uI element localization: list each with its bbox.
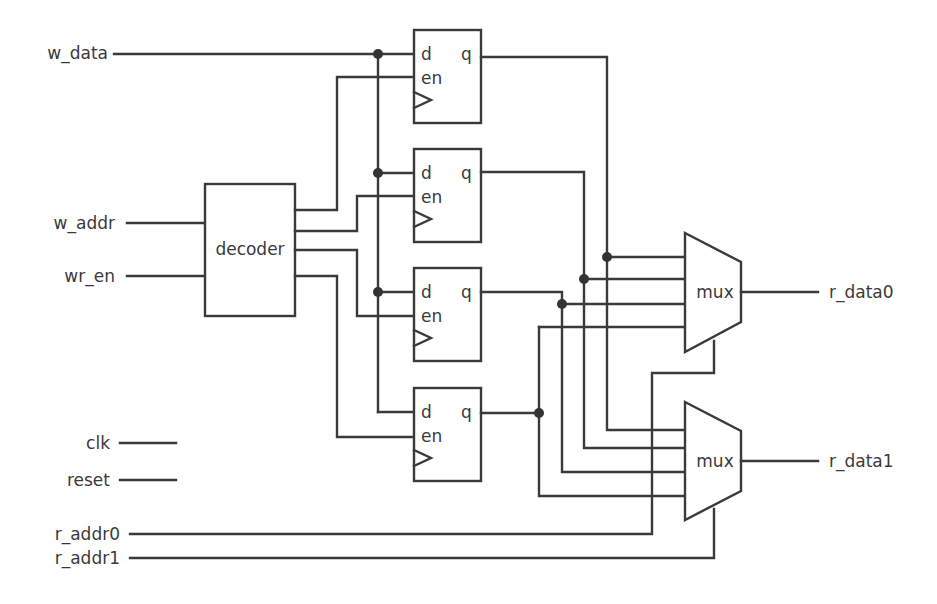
mux-1: mux — [685, 402, 741, 520]
enable-wires — [295, 77, 414, 437]
mux-0: mux — [685, 233, 741, 352]
port-q: q — [461, 163, 472, 183]
decoder-label: decoder — [215, 239, 284, 259]
label-r-addr1: r_addr1 — [55, 548, 120, 569]
register-3: d q en — [414, 388, 481, 481]
label-w-data: w_data — [47, 43, 108, 64]
register-2: d q en — [414, 268, 481, 361]
mux-label: mux — [696, 451, 733, 471]
register-file-diagram: w_data w_addr wr_en clk reset r_addr0 r_… — [0, 0, 937, 604]
label-w-addr: w_addr — [54, 213, 115, 234]
mux-label: mux — [696, 282, 733, 302]
register-0: d q en — [414, 30, 481, 123]
label-r-data0: r_data0 — [829, 282, 894, 303]
label-wr-en: wr_en — [64, 266, 115, 287]
port-en: en — [421, 426, 442, 446]
port-en: en — [421, 306, 442, 326]
port-d: d — [421, 163, 432, 183]
junction-dot — [557, 299, 567, 309]
port-q: q — [461, 402, 472, 422]
port-q: q — [461, 282, 472, 302]
label-clk: clk — [86, 433, 110, 453]
register-1: d q en — [414, 149, 481, 242]
port-en: en — [421, 187, 442, 207]
label-r-addr0: r_addr0 — [55, 524, 120, 545]
port-en: en — [421, 68, 442, 88]
junction-dot — [579, 274, 589, 284]
junction-dot — [373, 287, 383, 297]
label-r-data1: r_data1 — [829, 451, 894, 472]
label-reset: reset — [67, 470, 110, 490]
junction-dot — [373, 49, 383, 59]
port-q: q — [461, 44, 472, 64]
port-d: d — [421, 402, 432, 422]
junction-dot — [373, 168, 383, 178]
port-d: d — [421, 44, 432, 64]
port-d: d — [421, 282, 432, 302]
junction-dot — [534, 408, 544, 418]
junction-dot — [602, 252, 612, 262]
schematic: w_data w_addr wr_en clk reset r_addr0 r_… — [0, 0, 937, 604]
